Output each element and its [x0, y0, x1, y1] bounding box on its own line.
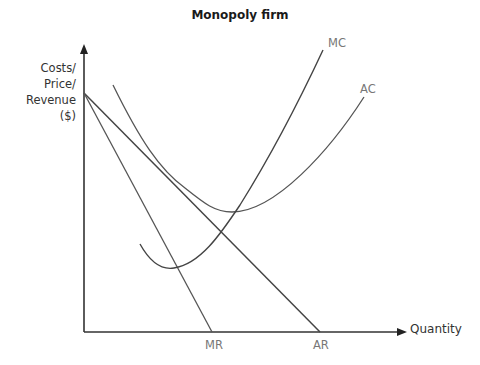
x-axis-arrow-icon	[397, 328, 407, 336]
ar-curve	[84, 93, 320, 332]
y-axis-arrow-icon	[80, 44, 88, 54]
mc-curve	[140, 50, 323, 268]
mr-curve	[84, 93, 212, 332]
axes	[80, 44, 407, 336]
ac-label: AC	[360, 82, 376, 96]
mc-label: MC	[328, 36, 346, 50]
monopoly-diagram	[0, 0, 480, 365]
mr-label: MR	[205, 338, 223, 352]
ac-curve	[113, 85, 364, 212]
x-axis-label: Quantity	[410, 322, 462, 336]
ar-label: AR	[313, 338, 329, 352]
